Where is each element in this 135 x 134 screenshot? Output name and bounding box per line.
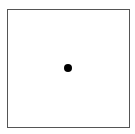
center-dot (64, 64, 72, 72)
